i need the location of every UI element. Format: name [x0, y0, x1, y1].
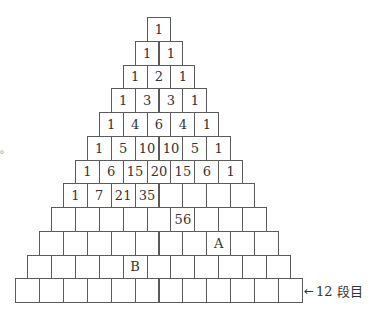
triangle-cell-r12-c2	[39, 278, 64, 303]
triangle-cell-r9-c2	[75, 207, 100, 232]
triangle-cell-r9-c5	[147, 207, 172, 232]
triangle-cell-r11-c8	[194, 255, 219, 280]
triangle-cell-r8-c4: 35	[135, 183, 160, 208]
side-mark: 。	[0, 141, 10, 156]
triangle-cell-r8-c1: 1	[63, 183, 88, 208]
triangle-cell-r11-c2	[51, 255, 76, 280]
triangle-cell-r9-c7	[194, 207, 219, 232]
triangle-cell-r12-c8	[182, 278, 207, 303]
triangle-cell-r10-c4	[111, 231, 136, 256]
triangle-cell-r10-c5	[135, 231, 160, 256]
triangle-cell-r8-c8	[230, 183, 255, 208]
triangle-cell-r11-c7	[170, 255, 195, 280]
triangle-cell-r7-c7: 1	[218, 160, 243, 185]
triangle-cell-r12-c3	[63, 278, 88, 303]
row-12-label-text: 12 段目	[316, 281, 363, 300]
triangle-cell-r10-c1	[39, 231, 64, 256]
triangle-cell-r2-c2: 1	[159, 41, 184, 66]
triangle-cell-r6-c3: 10	[135, 136, 160, 161]
triangle-cell-r11-c6	[147, 255, 172, 280]
triangle-cell-r4-c3: 3	[159, 88, 184, 113]
triangle-cell-r10-c3	[87, 231, 112, 256]
triangle-cell-r10-c8: A	[206, 231, 231, 256]
triangle-cell-r8-c3: 21	[111, 183, 136, 208]
triangle-cell-r11-c10	[242, 255, 267, 280]
triangle-cell-r12-c5	[111, 278, 136, 303]
triangle-cell-r10-c9	[230, 231, 255, 256]
triangle-cell-r9-c3	[99, 207, 124, 232]
triangle-cell-r12-c7	[159, 278, 184, 303]
triangle-cell-r12-c10	[230, 278, 255, 303]
triangle-cell-r9-c8	[218, 207, 243, 232]
triangle-cell-r11-c3	[75, 255, 100, 280]
triangle-cell-r12-c6	[135, 278, 160, 303]
triangle-cell-r10-c10	[254, 231, 279, 256]
triangle-cell-r8-c5	[159, 183, 184, 208]
triangle-cell-r7-c3: 15	[123, 160, 148, 185]
pascal-triangle-diagram: 。 11112113311464115101051161520156117213…	[0, 0, 369, 317]
triangle-cell-r5-c5: 1	[194, 112, 219, 137]
triangle-cell-r9-c1	[51, 207, 76, 232]
triangle-cell-r4-c4: 1	[182, 88, 207, 113]
triangle-cell-r11-c9	[218, 255, 243, 280]
triangle-cell-r12-c11	[254, 278, 279, 303]
triangle-cell-r8-c2: 7	[87, 183, 112, 208]
triangle-cell-r7-c5: 15	[170, 160, 195, 185]
triangle-cell-r7-c4: 20	[147, 160, 172, 185]
row-12-label: ← 12 段目	[304, 281, 363, 300]
triangle-cell-r9-c6: 56	[170, 207, 195, 232]
triangle-cell-r2-c1: 1	[135, 41, 160, 66]
triangle-cell-r9-c9	[242, 207, 267, 232]
triangle-cell-r12-c12	[278, 278, 303, 303]
triangle-cell-r6-c4: 10	[159, 136, 184, 161]
triangle-cell-r6-c5: 5	[182, 136, 207, 161]
triangle-cell-r10-c6	[159, 231, 184, 256]
triangle-cell-r8-c6	[182, 183, 207, 208]
triangle-cell-r12-c4	[87, 278, 112, 303]
triangle-cell-r6-c2: 5	[111, 136, 136, 161]
triangle-cell-r11-c4	[99, 255, 124, 280]
triangle-cell-r12-c9	[206, 278, 231, 303]
triangle-cell-r3-c3: 1	[170, 65, 195, 90]
triangle-cell-r7-c1: 1	[75, 160, 100, 185]
triangle-cell-r8-c7	[206, 183, 231, 208]
triangle-cell-r4-c1: 1	[111, 88, 136, 113]
triangle-cell-r10-c7	[182, 231, 207, 256]
triangle-cell-r6-c1: 1	[87, 136, 112, 161]
triangle-cell-r7-c2: 6	[99, 160, 124, 185]
triangle-cell-r10-c2	[63, 231, 88, 256]
triangle-cell-r5-c3: 6	[147, 112, 172, 137]
triangle-cell-r5-c2: 4	[123, 112, 148, 137]
triangle-cell-r11-c5: B	[123, 255, 148, 280]
triangle-cell-r4-c2: 3	[135, 88, 160, 113]
triangle-cell-r11-c11	[266, 255, 291, 280]
triangle-cell-r12-c1	[15, 278, 40, 303]
triangle-cell-r3-c2: 2	[147, 65, 172, 90]
triangle-cell-r7-c6: 6	[194, 160, 219, 185]
left-arrow-icon: ←	[304, 284, 314, 298]
triangle-cell-r1-c1: 1	[147, 17, 172, 42]
triangle-cell-r11-c1	[27, 255, 52, 280]
triangle-cell-r9-c4	[123, 207, 148, 232]
triangle-cell-r5-c1: 1	[99, 112, 124, 137]
triangle-cell-r6-c6: 1	[206, 136, 231, 161]
triangle-cell-r5-c4: 4	[170, 112, 195, 137]
triangle-cell-r3-c1: 1	[123, 65, 148, 90]
